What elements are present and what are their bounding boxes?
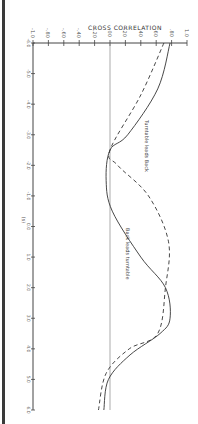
correlation-tick-label: .20: [122, 29, 128, 37]
correlation-tick-label: -.60: [61, 28, 67, 38]
lag-tick-label: -2.0: [26, 161, 31, 170]
lag-tick-label: 0.0: [26, 223, 31, 230]
lag-tick-label: -6.0: [26, 39, 31, 48]
lag-tick-label: -1.0: [26, 192, 31, 201]
annotation-turntable-leads-back: Turntable leads Back: [144, 119, 150, 172]
lag-tick-label: 6.0: [26, 406, 31, 413]
lag-tick-label: -5.0: [26, 69, 31, 78]
correlation-tick-label: .80: [169, 29, 175, 37]
annotation-back-leads-turntable: Back leads turntable: [125, 228, 131, 280]
correlation-tick-label: .60: [153, 29, 159, 37]
correlation-tick-label: .40: [138, 29, 144, 37]
lag-axis-label: (s): [21, 217, 27, 224]
lag-tick-label: 5.0: [26, 376, 31, 383]
lag-tick-label: -4.0: [26, 100, 31, 109]
lag-tick-label: -3.0: [26, 130, 31, 139]
correlation-tick-label: -.80: [45, 28, 51, 38]
lag-tick-label: 2.0: [26, 284, 31, 291]
lag-tick-label: 1.0: [26, 253, 31, 260]
correlation-tick-label: -.20: [92, 28, 98, 38]
correlation-tick-label: -.40: [76, 28, 82, 38]
lag-tick-label: 4.0: [26, 345, 31, 352]
cross-correlation-plot: -1.0-.80-.60-.40-.20.00.20.40.60.801.0-6…: [0, 0, 198, 424]
correlation-tick-label: -1.0: [30, 28, 36, 38]
correlation-tick-label: 1.0: [184, 29, 190, 37]
series-dashed-line: [98, 43, 169, 410]
series-solid-line: [104, 43, 171, 410]
lag-tick-label: 3.0: [26, 315, 31, 322]
correlation-tick-label: .00: [107, 29, 113, 37]
